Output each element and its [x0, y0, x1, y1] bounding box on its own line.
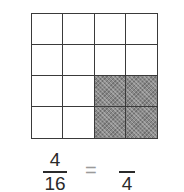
right-numerator-blank[interactable] — [119, 150, 135, 170]
grid-cell — [95, 45, 126, 76]
grid-cell — [63, 45, 94, 76]
grid-cell-shaded — [126, 76, 157, 107]
grid-cell — [32, 14, 63, 45]
right-denominator: 4 — [119, 174, 135, 192]
grid-cell — [63, 14, 94, 45]
grid-cell — [32, 45, 63, 76]
grid-cell — [63, 76, 94, 107]
grid-cell — [126, 45, 157, 76]
grid-cell — [126, 14, 157, 45]
left-denominator: 16 — [43, 174, 67, 192]
right-fraction: 4 — [119, 150, 135, 191]
grid-cell-shaded — [126, 107, 157, 138]
grid-cell — [63, 107, 94, 138]
grid-cell — [32, 107, 63, 138]
fraction-grid — [31, 13, 158, 139]
grid-cell-shaded — [95, 107, 126, 138]
grid-cell — [32, 76, 63, 107]
equals-sign: = — [85, 160, 97, 180]
grid-cell — [95, 14, 126, 45]
left-fraction: 4 16 — [43, 150, 67, 191]
left-numerator: 4 — [43, 150, 67, 170]
grid-cell-shaded — [95, 76, 126, 107]
